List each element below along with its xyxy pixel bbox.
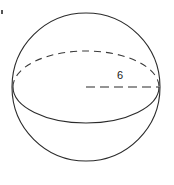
equator-back-arc — [13, 51, 159, 87]
sphere-figure-svg — [0, 0, 174, 185]
equator-front-arc — [13, 87, 159, 123]
sphere-diagram-canvas: 6 — [0, 0, 174, 185]
radius-length-label: 6 — [117, 69, 123, 81]
